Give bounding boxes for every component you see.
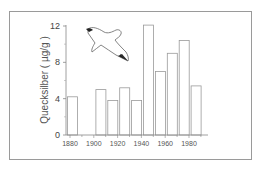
- bar: [108, 101, 118, 136]
- bar: [144, 25, 154, 135]
- bar: [120, 88, 130, 135]
- bar: [67, 97, 77, 135]
- bar: [132, 101, 142, 136]
- x-tick-label: 1960: [157, 140, 173, 147]
- bars: [67, 25, 201, 135]
- gull-icon: [86, 28, 128, 61]
- x-tick-label: 1980: [181, 140, 197, 147]
- y-tick-label: 12: [50, 21, 60, 31]
- y-tick-label: 8: [55, 57, 60, 67]
- x-tick-label: 1920: [110, 140, 126, 147]
- x-tick-label: 1880: [62, 140, 78, 147]
- y-axis-label: Quecksilber ( µg/g ): [39, 36, 50, 123]
- x-tick-label: 1900: [86, 140, 102, 147]
- bar-chart: 04812188019001920194019601980 Quecksilbe…: [0, 0, 262, 169]
- bar: [179, 41, 189, 136]
- x-tick-label: 1940: [134, 140, 150, 147]
- bar: [167, 53, 177, 135]
- bar: [191, 86, 201, 135]
- bar: [96, 90, 106, 135]
- y-tick-label: 0: [55, 130, 60, 140]
- bar: [155, 71, 165, 135]
- y-tick-label: 4: [55, 94, 60, 104]
